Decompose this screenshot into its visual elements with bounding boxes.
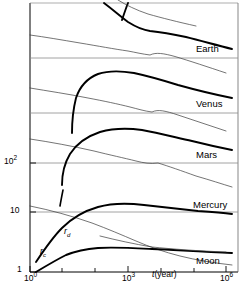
x-axis-title-unit: (year) bbox=[154, 269, 176, 279]
curve-rc-mercury-tail bbox=[60, 190, 63, 206]
panel-label-mercury: Mercury bbox=[193, 200, 227, 210]
panel-label-earth: Earth bbox=[196, 44, 219, 54]
x-axis-title: t(year) bbox=[152, 270, 177, 279]
curve-label-rd-sub: d bbox=[67, 232, 70, 238]
panel-curves-earth bbox=[30, 0, 232, 73]
curve-label-rc-sub: c bbox=[43, 252, 46, 258]
y-tick-label-1: 1 bbox=[17, 265, 22, 274]
x-axis-ticks bbox=[30, 266, 226, 272]
panel-label-venus: Venus bbox=[196, 99, 222, 109]
curve-label-rd: rd bbox=[64, 227, 70, 236]
x-tick-1e0-exp: 0 bbox=[33, 271, 37, 278]
x-tick-label-1e3: 103 bbox=[122, 274, 135, 283]
x-tick-1e6-exp: 6 bbox=[229, 271, 233, 278]
figure-container: Earth Venus Mars Mercury Moon rc rd 102 … bbox=[0, 0, 245, 287]
x-tick-label-1e0: 100 bbox=[24, 274, 37, 283]
curve-rd-venus bbox=[30, 88, 226, 131]
panel-curves-moon bbox=[36, 236, 232, 272]
panel-separators bbox=[30, 58, 238, 212]
y-axis-ticks bbox=[30, 163, 36, 272]
panel-label-mars: Mars bbox=[196, 150, 217, 160]
y-tick-label-10: 10 bbox=[10, 206, 19, 215]
y-tick-label-100: 102 bbox=[4, 157, 17, 166]
y-tick-100-exp: 2 bbox=[13, 154, 17, 161]
panel-label-moon: Moon bbox=[196, 256, 220, 266]
curve-label-rc: rc bbox=[40, 247, 46, 256]
x-tick-label-1e6: 106 bbox=[220, 274, 233, 283]
x-tick-1e3-exp: 3 bbox=[131, 271, 135, 278]
